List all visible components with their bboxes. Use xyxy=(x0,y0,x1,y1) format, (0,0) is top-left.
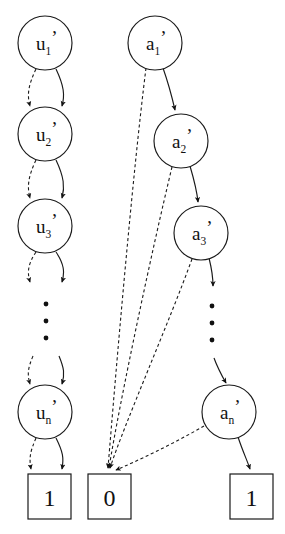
terminal-label-box-middle: 0 xyxy=(104,485,116,511)
edge-solid-a3-to-dots xyxy=(209,258,213,286)
edge-solid-an-to-box-right xyxy=(238,437,250,469)
edge-solid-un-to-box-left xyxy=(56,438,63,469)
edge-solid-a1-to-a2 xyxy=(163,68,175,110)
node-u3[interactable]: u3’ xyxy=(18,199,72,253)
edge-dashed-un-to-box-left xyxy=(30,438,36,469)
node-an[interactable]: an’ xyxy=(202,385,256,439)
terminal-label-box-right: 1 xyxy=(246,485,258,511)
ellipsis-dot-a-3 xyxy=(210,338,215,343)
edge-solid-dots-to-an xyxy=(214,358,226,383)
node-un[interactable]: un’ xyxy=(18,385,72,439)
ellipsis-dot-u-2 xyxy=(44,319,49,324)
ellipsis-dot-u-3 xyxy=(44,336,49,341)
edge-dashed-a2-to-box-middle xyxy=(109,167,172,468)
graph-diagram: u1’u2’u3’un’a1’a2’a3’an’ 101 xyxy=(0,0,285,534)
node-a2[interactable]: a2’ xyxy=(154,114,208,168)
ellipsis-dot-a-2 xyxy=(210,321,215,326)
edge-dashed-u3-to-dots xyxy=(28,252,36,282)
ellipsis-dot-u-1 xyxy=(44,302,49,307)
node-a3[interactable]: a3’ xyxy=(174,206,228,260)
node-circle-a1 xyxy=(128,16,182,70)
terminal-box-left[interactable]: 1 xyxy=(28,474,71,519)
graph-nodes: u1’u2’u3’un’a1’a2’a3’an’ xyxy=(18,16,256,439)
ellipsis-dots xyxy=(44,302,215,343)
node-circle-an xyxy=(202,385,256,439)
edge-solid-dots-to-un xyxy=(59,356,64,384)
node-u2[interactable]: u2’ xyxy=(18,107,72,161)
edge-dashed-an-to-box-middle xyxy=(116,426,204,470)
node-circle-a3 xyxy=(174,206,228,260)
terminal-label-box-left: 1 xyxy=(44,485,56,511)
node-u1[interactable]: u1’ xyxy=(18,16,72,70)
edge-dashed-a3-to-box-middle xyxy=(110,259,192,468)
node-a1[interactable]: a1’ xyxy=(128,16,182,70)
node-circle-a2 xyxy=(154,114,208,168)
edge-solid-u2-to-u3 xyxy=(56,160,64,198)
terminal-box-middle[interactable]: 0 xyxy=(88,474,131,519)
ellipsis-dot-a-1 xyxy=(210,304,215,309)
edge-dashed-dots-to-un xyxy=(28,356,33,384)
edge-solid-u1-to-u2 xyxy=(56,69,64,106)
edge-solid-a2-to-a3 xyxy=(190,166,198,202)
edge-dashed-u2-to-u3 xyxy=(28,160,36,198)
terminal-boxes: 101 xyxy=(28,474,273,519)
edge-dashed-u1-to-u2 xyxy=(28,69,36,106)
edge-solid-u3-to-dots xyxy=(56,252,64,282)
edge-dashed-a1-to-box-middle xyxy=(108,68,146,468)
terminal-box-right[interactable]: 1 xyxy=(230,474,273,519)
diagram-canvas: u1’u2’u3’un’a1’a2’a3’an’ 101 xyxy=(0,0,285,534)
